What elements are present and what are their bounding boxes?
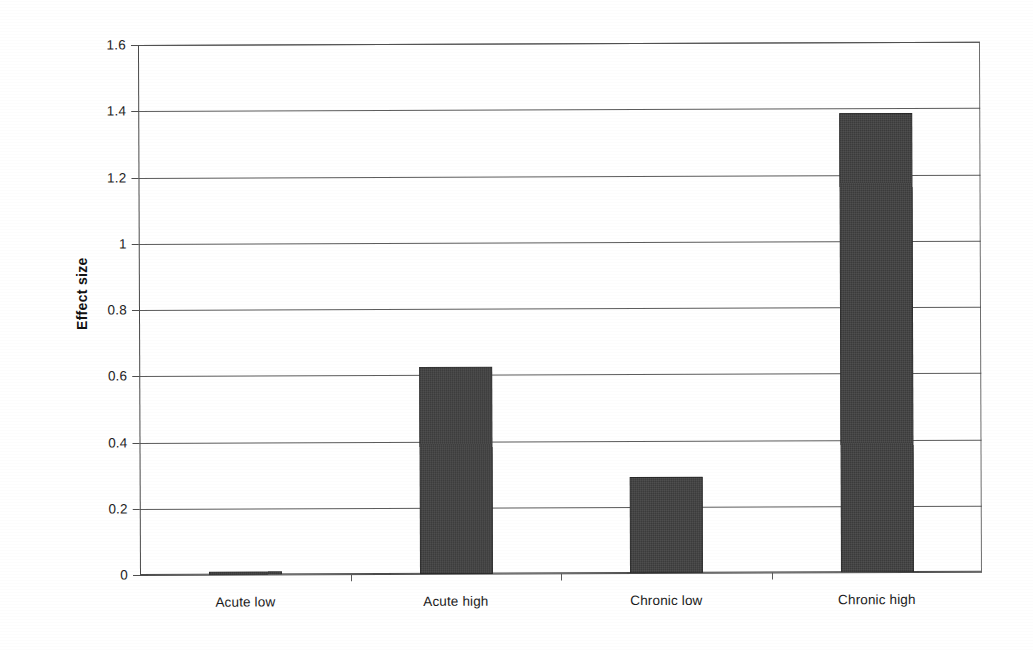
x-axis-tick xyxy=(350,574,351,581)
y-axis-tick xyxy=(132,310,139,311)
y-axis-tick xyxy=(131,45,138,46)
x-axis-category-label: Chronic low xyxy=(630,593,702,608)
bar-chronic-low xyxy=(630,477,703,573)
y-axis-tick xyxy=(132,376,139,377)
bar-acute-low xyxy=(209,571,282,575)
bar-chronic-high xyxy=(839,113,913,572)
y-axis-tick xyxy=(131,111,138,112)
y-axis-tick-label: 0 xyxy=(120,568,128,583)
y-axis-tick-label: 0.6 xyxy=(108,369,127,384)
y-axis-tick xyxy=(131,178,138,179)
bar-acute-high xyxy=(419,367,492,574)
x-axis-category-label: Acute high xyxy=(423,594,488,609)
y-axis-tick xyxy=(132,244,139,245)
x-axis-tick xyxy=(771,573,772,580)
y-axis-tick-label: 1.4 xyxy=(107,104,126,119)
x-axis-category-label: Acute low xyxy=(215,594,275,609)
y-axis-tick xyxy=(133,575,140,576)
plot-area: 00.20.40.60.811.21.41.6 Acute lowAcute h… xyxy=(138,42,982,575)
y-axis-tick-label: 0.2 xyxy=(108,501,127,516)
y-axis-tick-label: 0.4 xyxy=(108,435,127,450)
bar-chart-figure: Effect size 00.20.40.60.811.21.41.6 Acut… xyxy=(0,0,1033,650)
y-axis-tick xyxy=(132,443,139,444)
y-axis-tick-label: 1 xyxy=(119,236,127,251)
x-axis-category-label: Chronic high xyxy=(838,592,916,607)
x-axis-tick xyxy=(561,573,562,580)
y-axis-tick-label: 0.8 xyxy=(108,303,127,318)
y-axis-tick xyxy=(133,509,140,510)
y-axis-tick-label: 1.6 xyxy=(107,38,126,53)
y-axis-tick-label: 1.2 xyxy=(107,170,126,185)
y-axis-title: Effect size xyxy=(74,257,90,330)
